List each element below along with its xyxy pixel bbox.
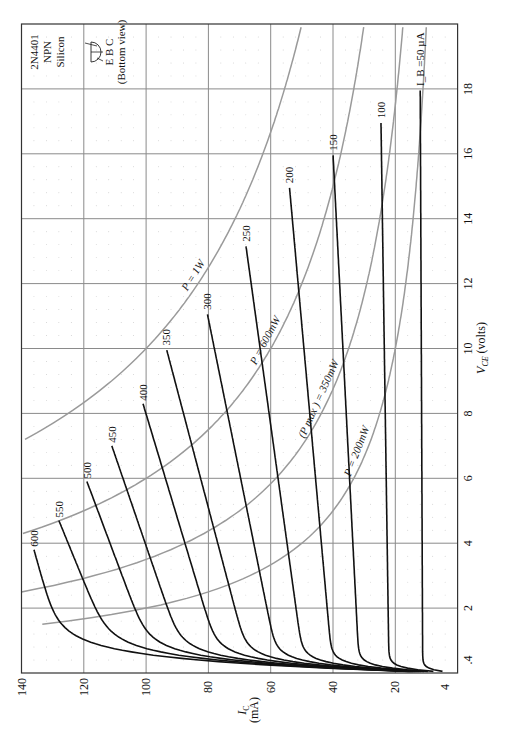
grid-dot [183,595,184,596]
grid-dot [283,465,284,466]
grid-dot [245,244,246,245]
grid-dot [195,140,196,141]
grid-dot [96,322,97,323]
grid-dot [320,114,321,115]
grid-dot [283,569,284,570]
grid-dot [308,556,309,557]
grid-dot [233,270,234,271]
grid-dot [407,37,408,38]
grid-dot [96,439,97,440]
grid-dot [171,309,172,310]
grid-dot [133,114,134,115]
grid-dot [96,426,97,427]
grid-dot [108,361,109,362]
grid-dot [432,335,433,336]
grid-dot [432,231,433,232]
grid-dot [233,530,234,531]
grid-dot [407,634,408,635]
grid-dot [158,140,159,141]
grid-dot [121,192,122,193]
grid-dot [108,244,109,245]
grid-dot [295,582,296,583]
grid-dot [370,621,371,622]
grid-dot [158,530,159,531]
grid-dot [71,179,72,180]
grid-dot [370,582,371,583]
grid-dot [320,50,321,51]
grid-dot [357,166,358,167]
grid-dot [357,37,358,38]
grid-dot [432,270,433,271]
grid-dot [407,504,408,505]
grid-dot [445,569,446,570]
grid-dot [357,296,358,297]
grid-dot [195,205,196,206]
grid-dot [121,634,122,635]
grid-dot [108,205,109,206]
grid-dot [445,374,446,375]
ib-curve-label: 250 [240,225,252,242]
grid-dot [345,504,346,505]
grid-dot [432,582,433,583]
grid-dot [295,387,296,388]
grid-dot [370,50,371,51]
grid-dot [308,50,309,51]
grid-dot [445,621,446,622]
grid-dot [283,387,284,388]
grid-dot [370,400,371,401]
grid-dot [258,465,259,466]
grid-dot [46,192,47,193]
grid-dot [382,335,383,336]
grid-dot [121,400,122,401]
ib-curve-label: 350 [160,329,172,346]
grid-dot [195,37,196,38]
grid-dot [345,439,346,440]
grid-dot [195,179,196,180]
grid-dot [158,270,159,271]
grid-dot [171,374,172,375]
grid-dot [432,50,433,51]
grid-dot [183,127,184,128]
grid-dot [295,556,296,557]
grid-dot [121,322,122,323]
grid-dot [121,660,122,661]
grid-dot [34,374,35,375]
grid-dot [34,335,35,336]
grid-dot [420,374,421,375]
grid-dot [345,517,346,518]
grid-dot [357,660,358,661]
grid-dot [245,426,246,427]
ib-curve [112,446,413,672]
grid-dot [171,556,172,557]
grid-dot [357,101,358,102]
grid-dot [432,491,433,492]
grid-dot [183,231,184,232]
grid-dot [370,127,371,128]
grid-dot [158,439,159,440]
grid-dot [158,309,159,310]
grid-dot [171,62,172,63]
grid-dot [345,192,346,193]
grid-dot [108,374,109,375]
grid-dot [407,309,408,310]
grid-dot [258,374,259,375]
grid-dot [432,101,433,102]
grid-dot [420,556,421,557]
grid-dot [108,257,109,258]
grid-dot [96,465,97,466]
grid-dot [96,400,97,401]
grid-dot [295,426,296,427]
grid-dot [420,400,421,401]
grid-dot [96,335,97,336]
grid-dot [233,621,234,622]
grid-dot [258,322,259,323]
grid-dot [58,296,59,297]
grid-dot [133,374,134,375]
grid-dot [308,439,309,440]
grid-dot [420,387,421,388]
grid-dot [46,296,47,297]
grid-dot [34,244,35,245]
grid-dot [407,439,408,440]
grid-dot [382,387,383,388]
grid-dot [58,270,59,271]
